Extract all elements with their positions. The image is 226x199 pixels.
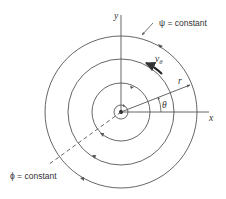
psi-label: ψ = constant [159,18,208,28]
phi-label: ϕ = constant [10,171,57,181]
r-label: r [178,76,182,86]
vortex-diagram: y x r θ vθ ψ = constant ϕ = constant [0,0,226,199]
arrow-icon [100,133,104,137]
arrow-icon [80,177,84,181]
psi-leader-line [142,23,153,35]
v-theta-label: vθ [155,54,163,65]
radius-line [121,85,190,112]
theta-arc [158,97,161,112]
arrow-icon [130,86,134,89]
theta-label: θ [162,100,167,110]
y-axis-label: y [113,11,119,21]
x-axis-label: x [208,113,214,123]
